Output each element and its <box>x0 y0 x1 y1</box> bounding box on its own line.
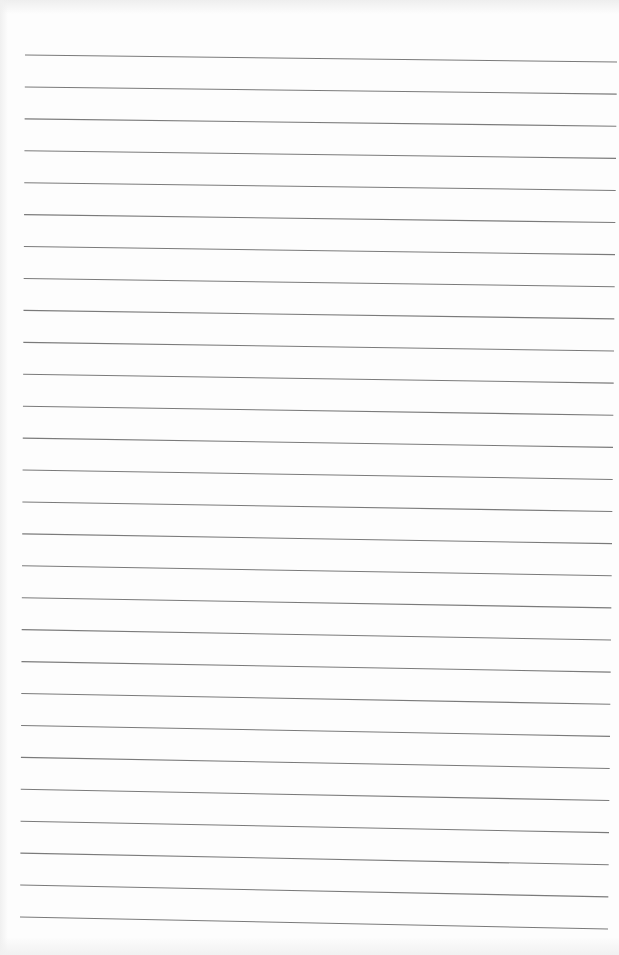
ruled-line <box>22 566 612 576</box>
ruled-line <box>25 119 617 126</box>
ruled-line <box>23 470 613 479</box>
ruled-line <box>21 821 609 832</box>
ruled-line <box>20 853 608 865</box>
ruled-line <box>22 630 611 640</box>
ruled-line <box>25 55 617 62</box>
ruled-line <box>21 789 610 800</box>
ruled-line <box>24 247 615 255</box>
ruled-line <box>21 694 610 705</box>
ruled-line <box>21 757 610 768</box>
ruled-line <box>23 406 613 415</box>
ruled-line <box>24 151 616 159</box>
ruled-line <box>23 342 614 351</box>
ruled-line <box>24 278 615 286</box>
ruled-line <box>22 502 612 512</box>
ruled-line <box>22 534 612 544</box>
ruled-line <box>20 885 608 897</box>
ruled-line <box>25 87 617 94</box>
ruled-line <box>21 662 610 673</box>
ruled-lines <box>0 0 619 955</box>
ruled-line <box>21 725 610 736</box>
ruled-line <box>24 183 615 191</box>
ruled-line <box>24 215 615 223</box>
ruled-line <box>23 438 613 447</box>
ruled-line <box>23 374 614 383</box>
ruled-line <box>22 598 611 608</box>
ruled-line <box>20 917 608 929</box>
lined-paper-page <box>0 0 619 955</box>
ruled-line <box>24 310 615 318</box>
